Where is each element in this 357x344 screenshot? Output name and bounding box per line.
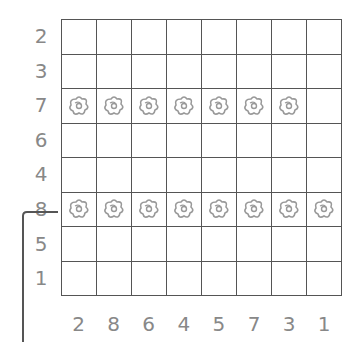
row-selection-bracket: [0, 0, 357, 344]
